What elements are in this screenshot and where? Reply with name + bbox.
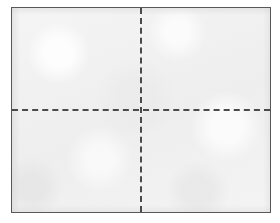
quadrant-bottom-left [12, 110, 141, 212]
quadrant-bottom-right [141, 110, 270, 212]
quadrant-top-left [12, 8, 141, 110]
bordered-rectangle [11, 7, 271, 213]
figure-canvas [0, 0, 280, 223]
quadrant-top-right [141, 8, 270, 110]
